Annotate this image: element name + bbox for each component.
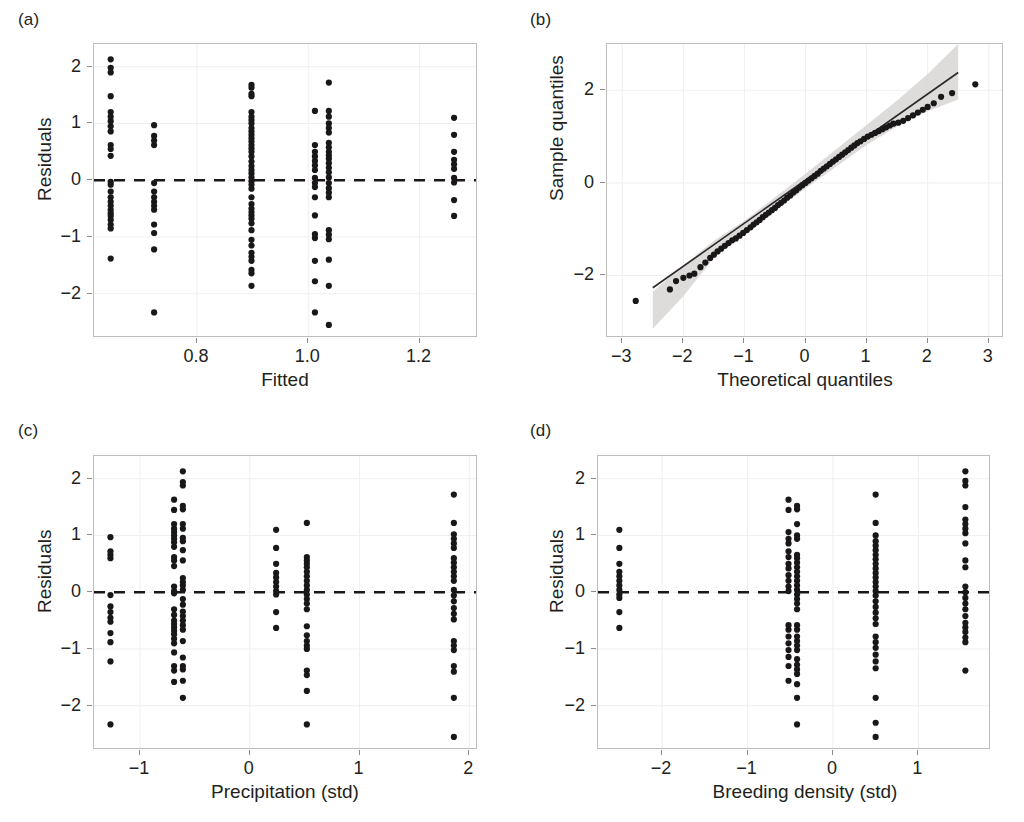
y-tick-label-c-0: 2 bbox=[47, 467, 81, 488]
x-axis-title-b: Theoretical quantiles bbox=[717, 369, 892, 391]
y-tick-label-d-0: 2 bbox=[551, 467, 585, 488]
x-tick-label-c-3: 2 bbox=[463, 758, 473, 779]
y-tick-label-a-4: −2 bbox=[47, 282, 81, 303]
x-axis-title-d: Breeding density (std) bbox=[713, 781, 898, 803]
panel-label-b: (b) bbox=[530, 10, 551, 30]
y-tick-d-2 bbox=[591, 591, 596, 592]
plot-area-d bbox=[597, 455, 990, 749]
x-tick-label-b-1: −2 bbox=[672, 346, 693, 367]
y-tick-c-3 bbox=[87, 648, 92, 649]
x-tick-label-a-0: 0.8 bbox=[183, 346, 208, 367]
figure-diagnostic-plots: (a)0.81.01.2210−1−2FittedResiduals(b)−3−… bbox=[0, 0, 1024, 822]
y-tick-a-3 bbox=[87, 236, 92, 237]
x-tick-label-a-2: 1.2 bbox=[406, 346, 431, 367]
y-tick-label-d-3: −1 bbox=[551, 637, 585, 658]
x-tick-a-0 bbox=[196, 338, 197, 343]
x-tick-b-1 bbox=[682, 338, 683, 343]
data-points bbox=[108, 56, 458, 328]
y-tick-d-3 bbox=[591, 648, 596, 649]
y-tick-b-0 bbox=[600, 89, 605, 90]
x-tick-label-b-5: 2 bbox=[922, 346, 932, 367]
y-tick-c-4 bbox=[87, 705, 92, 706]
y-tick-b-1 bbox=[600, 182, 605, 183]
y-tick-b-2 bbox=[600, 274, 605, 275]
y-tick-a-2 bbox=[87, 179, 92, 180]
x-tick-b-4 bbox=[866, 338, 867, 343]
plot-area-b bbox=[606, 43, 1003, 337]
x-tick-label-d-0: −2 bbox=[651, 758, 672, 779]
y-axis-title-b: Sample quantiles bbox=[546, 55, 568, 201]
y-axis-title-d: Residuals bbox=[546, 530, 568, 613]
x-tick-label-b-6: 3 bbox=[983, 346, 993, 367]
x-tick-b-6 bbox=[988, 338, 989, 343]
x-tick-b-0 bbox=[621, 338, 622, 343]
panel-label-a: (a) bbox=[18, 10, 39, 30]
y-tick-d-0 bbox=[591, 478, 596, 479]
x-tick-label-b-2: −1 bbox=[733, 346, 754, 367]
x-axis-title-a: Fitted bbox=[261, 369, 309, 391]
y-tick-c-2 bbox=[87, 591, 92, 592]
plot-canvas-a bbox=[94, 44, 477, 337]
plot-canvas-b bbox=[607, 44, 1003, 337]
x-tick-a-2 bbox=[419, 338, 420, 343]
x-tick-label-d-2: 0 bbox=[827, 758, 837, 779]
x-tick-label-c-0: −1 bbox=[129, 758, 150, 779]
x-tick-c-3 bbox=[468, 750, 469, 755]
x-tick-c-1 bbox=[249, 750, 250, 755]
x-tick-c-0 bbox=[139, 750, 140, 755]
data-points bbox=[616, 468, 968, 740]
x-tick-label-d-3: 1 bbox=[912, 758, 922, 779]
x-tick-label-b-0: −3 bbox=[611, 346, 632, 367]
x-tick-a-1 bbox=[307, 338, 308, 343]
x-tick-label-a-1: 1.0 bbox=[295, 346, 320, 367]
x-tick-label-d-1: −1 bbox=[736, 758, 757, 779]
y-tick-d-1 bbox=[591, 534, 596, 535]
plot-area-c bbox=[93, 455, 477, 749]
panel-label-c: (c) bbox=[18, 421, 38, 441]
x-tick-b-3 bbox=[805, 338, 806, 343]
y-tick-a-4 bbox=[87, 293, 92, 294]
x-tick-d-3 bbox=[917, 750, 918, 755]
data-points bbox=[107, 468, 457, 740]
y-axis-title-a: Residuals bbox=[34, 118, 56, 201]
y-tick-label-c-3: −1 bbox=[47, 637, 81, 658]
y-tick-label-c-4: −2 bbox=[47, 694, 81, 715]
y-tick-label-a-3: −1 bbox=[47, 225, 81, 246]
x-tick-c-2 bbox=[359, 750, 360, 755]
plot-area-a bbox=[93, 43, 477, 337]
y-tick-a-0 bbox=[87, 66, 92, 67]
x-tick-d-2 bbox=[832, 750, 833, 755]
x-tick-label-b-3: 0 bbox=[799, 346, 809, 367]
x-tick-d-0 bbox=[661, 750, 662, 755]
plot-canvas-d bbox=[598, 456, 990, 749]
plot-canvas-c bbox=[94, 456, 477, 749]
x-tick-label-b-4: 1 bbox=[861, 346, 871, 367]
panel-label-d: (d) bbox=[530, 421, 551, 441]
x-axis-title-c: Precipitation (std) bbox=[211, 781, 359, 803]
y-tick-label-d-4: −2 bbox=[551, 694, 585, 715]
y-tick-d-4 bbox=[591, 705, 596, 706]
y-tick-label-a-0: 2 bbox=[47, 55, 81, 76]
y-tick-c-0 bbox=[87, 478, 92, 479]
y-tick-a-1 bbox=[87, 122, 92, 123]
x-tick-b-2 bbox=[743, 338, 744, 343]
y-axis-title-c: Residuals bbox=[34, 530, 56, 613]
y-tick-c-1 bbox=[87, 534, 92, 535]
x-tick-d-1 bbox=[747, 750, 748, 755]
y-tick-label-b-2: −2 bbox=[560, 264, 594, 285]
x-tick-b-5 bbox=[927, 338, 928, 343]
x-tick-label-c-1: 0 bbox=[244, 758, 254, 779]
x-tick-label-c-2: 1 bbox=[353, 758, 363, 779]
